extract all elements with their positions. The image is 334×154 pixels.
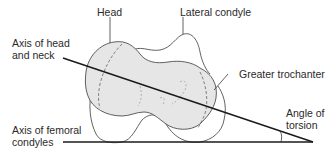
axis-femoral-condyles-label: Axis of femoral condyles [12,124,81,148]
femoral-head-neck-shape [85,42,216,130]
axis-head-neck-label: Axis of head and neck [12,37,70,61]
greater-trochanter-label: Greater trochanter [239,68,325,80]
femoral-torsion-diagram: Head Lateral condyle Axis of head and ne… [0,0,334,154]
head-label: Head [97,6,122,18]
angle-of-torsion-label: Angle of torsion [286,107,325,131]
angle-of-torsion-arc [280,131,282,142]
greater-trochanter-leader-line [214,74,228,90]
lateral-condyle-label: Lateral condyle [180,6,251,18]
